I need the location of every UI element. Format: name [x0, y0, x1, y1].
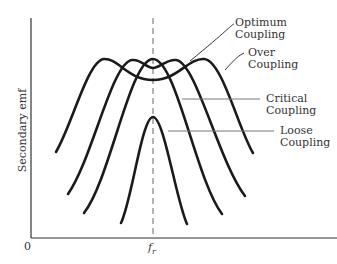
origin-label: 0 [24, 241, 31, 253]
curve-loose-coupling [121, 117, 187, 224]
label-loose-coupling: Loose Coupling [280, 125, 330, 149]
y-axis-label: Secondary emf [16, 81, 29, 181]
label-optimum-coupling: Optimum Coupling [235, 17, 287, 41]
leader-over [225, 53, 244, 70]
leader-optimum [190, 24, 234, 61]
label-over-coupling: Over Coupling [248, 47, 298, 71]
resonance-label: fr [148, 242, 156, 258]
curve-over-coupling [56, 59, 253, 153]
label-critical-coupling: Critical Coupling [266, 93, 316, 117]
